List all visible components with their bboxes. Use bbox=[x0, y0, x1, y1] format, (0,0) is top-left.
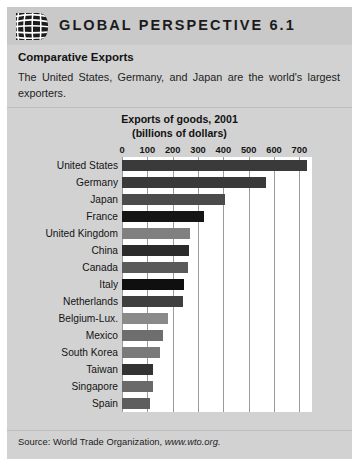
chart-title-line2: (billions of dollars) bbox=[7, 127, 352, 141]
plot-area-wrapper bbox=[122, 157, 312, 412]
bar-row bbox=[122, 191, 312, 208]
bar-italy bbox=[122, 279, 184, 290]
category-label-slot: Canada bbox=[7, 259, 118, 276]
source-url: www.wto.org. bbox=[165, 436, 221, 447]
x-axis-tick-labels: 0100200300400500600700 bbox=[122, 145, 312, 157]
category-label: Belgium-Lux. bbox=[59, 310, 118, 327]
panel-header: GLOBAL PERSPECTIVE 6.1 bbox=[7, 7, 352, 45]
globe-grid-icon bbox=[16, 12, 49, 41]
bar-row bbox=[122, 310, 312, 327]
category-label: Taiwan bbox=[86, 361, 118, 378]
x-tick-200: 200 bbox=[165, 145, 181, 155]
bar-united-kingdom bbox=[122, 228, 190, 239]
bar-mexico bbox=[122, 330, 163, 341]
bar-row bbox=[122, 242, 312, 259]
chart-title: Exports of goods, 2001 (billions of doll… bbox=[7, 113, 352, 141]
category-label-slot: United States bbox=[7, 157, 118, 174]
category-label-slot: Japan bbox=[7, 191, 118, 208]
bar-france bbox=[122, 211, 204, 222]
bar-row bbox=[122, 259, 312, 276]
category-label-slot: Belgium-Lux. bbox=[7, 310, 118, 327]
panel-title: GLOBAL PERSPECTIVE 6.1 bbox=[59, 17, 296, 33]
category-label-slot: France bbox=[7, 208, 118, 225]
x-tick-0: 0 bbox=[119, 145, 124, 155]
section-subtitle: Comparative Exports bbox=[18, 51, 134, 63]
category-label: United Kingdom bbox=[46, 225, 119, 242]
bar-south-korea bbox=[122, 347, 160, 358]
category-label: Japan bbox=[90, 191, 118, 208]
bar-row bbox=[122, 208, 312, 225]
divider-top bbox=[7, 107, 352, 108]
category-label: Germany bbox=[76, 174, 118, 191]
bar-row bbox=[122, 157, 312, 174]
category-label: Italy bbox=[99, 276, 118, 293]
bar-spain bbox=[122, 398, 150, 409]
category-label: Canada bbox=[82, 259, 118, 276]
category-label: China bbox=[91, 242, 118, 259]
x-tick-500: 500 bbox=[241, 145, 257, 155]
category-label: Singapore bbox=[72, 378, 118, 395]
x-tick-600: 600 bbox=[266, 145, 282, 155]
source-prefix: Source: World Trade Organization, bbox=[18, 436, 165, 447]
category-label: South Korea bbox=[61, 344, 118, 361]
bar-japan bbox=[122, 194, 225, 205]
category-label-slot: United Kingdom bbox=[7, 225, 118, 242]
bar-row bbox=[122, 293, 312, 310]
bar-singapore bbox=[122, 381, 153, 392]
category-label-slot: Taiwan bbox=[7, 361, 118, 378]
category-label-slot: Spain bbox=[7, 395, 118, 412]
category-label-slot: Mexico bbox=[7, 327, 118, 344]
x-tick-100: 100 bbox=[140, 145, 156, 155]
x-tick-400: 400 bbox=[216, 145, 232, 155]
category-label: Netherlands bbox=[63, 293, 118, 310]
bar-china bbox=[122, 245, 189, 256]
bar-netherlands bbox=[122, 296, 183, 307]
bar-row bbox=[122, 174, 312, 191]
bar-taiwan bbox=[122, 364, 153, 375]
bar-united-states bbox=[122, 160, 307, 171]
category-label-slot: Germany bbox=[7, 174, 118, 191]
bar-row bbox=[122, 395, 312, 412]
category-label: Mexico bbox=[86, 327, 118, 344]
bar-row bbox=[122, 276, 312, 293]
category-label: United States bbox=[57, 157, 118, 174]
category-label-slot: Netherlands bbox=[7, 293, 118, 310]
category-label: France bbox=[86, 208, 118, 225]
plot-area bbox=[122, 157, 312, 412]
bar-row bbox=[122, 361, 312, 378]
category-label-slot: Singapore bbox=[7, 378, 118, 395]
bar-row bbox=[122, 344, 312, 361]
divider-bottom bbox=[7, 430, 352, 431]
bar-canada bbox=[122, 262, 188, 273]
bar-germany bbox=[122, 177, 266, 188]
bar-row bbox=[122, 327, 312, 344]
category-label-slot: South Korea bbox=[7, 344, 118, 361]
x-tick-700: 700 bbox=[292, 145, 308, 155]
chart-title-line1: Exports of goods, 2001 bbox=[7, 113, 352, 127]
bar-row bbox=[122, 378, 312, 395]
section-body-text: The United States, Germany, and Japan ar… bbox=[18, 70, 340, 101]
category-label-slot: Italy bbox=[7, 276, 118, 293]
category-label: Spain bbox=[92, 395, 118, 412]
y-axis-category-labels: United StatesGermanyJapanFranceUnited Ki… bbox=[7, 157, 118, 412]
source-note: Source: World Trade Organization, www.wt… bbox=[18, 436, 221, 447]
bar-row bbox=[122, 225, 312, 242]
x-tick-300: 300 bbox=[190, 145, 206, 155]
category-label-slot: China bbox=[7, 242, 118, 259]
bar-belgium-lux bbox=[122, 313, 168, 324]
global-perspective-panel: GLOBAL PERSPECTIVE 6.1 Comparative Expor… bbox=[7, 7, 352, 459]
